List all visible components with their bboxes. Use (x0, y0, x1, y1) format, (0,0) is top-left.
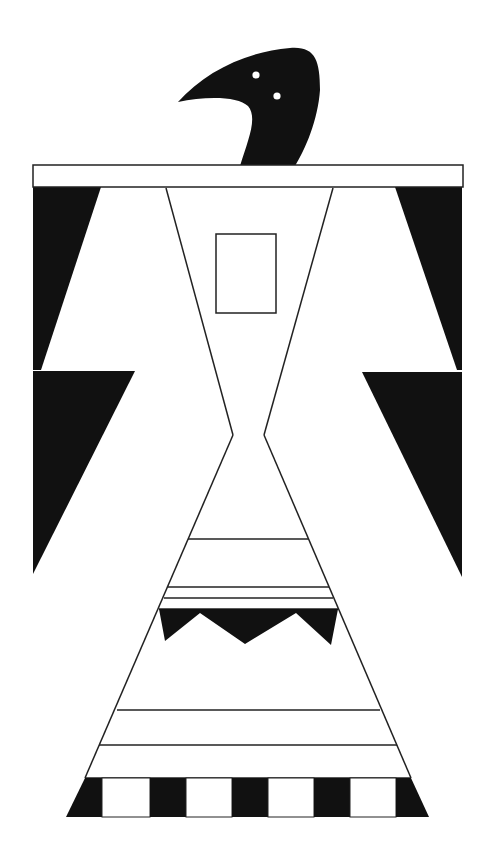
left-wing-lower-black (33, 371, 135, 574)
thunderbird-illustration (0, 0, 496, 864)
right-wing-lower-black (362, 372, 462, 577)
checker-black-2 (150, 778, 186, 817)
artwork-canvas: Thunderbird geometric design (0, 0, 496, 864)
checker-band (66, 778, 429, 817)
checker-white-1 (102, 778, 150, 817)
skirt-left-edge (85, 435, 233, 778)
chest-rectangle (216, 234, 276, 313)
left-eye (252, 71, 259, 78)
checker-white-3 (268, 778, 314, 817)
zigzag-band (159, 609, 338, 645)
checker-black-4 (314, 778, 350, 817)
checker-black-1 (66, 778, 102, 817)
checker-black-3 (232, 778, 268, 817)
right-eye (273, 92, 280, 99)
bird-head (178, 48, 320, 166)
upper-body-right-edge (264, 188, 333, 435)
checker-white-4 (350, 778, 396, 817)
upper-body-left-edge (166, 188, 233, 435)
right-wing-upper-black (395, 187, 462, 370)
checker-white-2 (186, 778, 232, 817)
left-wing-upper-black (33, 187, 101, 370)
skirt-right-edge (264, 435, 411, 778)
top-bar (33, 165, 463, 187)
checker-black-5 (396, 778, 429, 817)
